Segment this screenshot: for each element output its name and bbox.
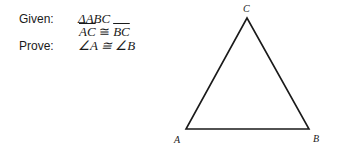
triangle-abc [186, 18, 309, 129]
vertex-label-a: A [173, 134, 181, 145]
vertex-label-b: B [313, 133, 319, 144]
vertex-label-c: C [243, 3, 250, 14]
triangle-diagram: C A B [0, 0, 338, 152]
